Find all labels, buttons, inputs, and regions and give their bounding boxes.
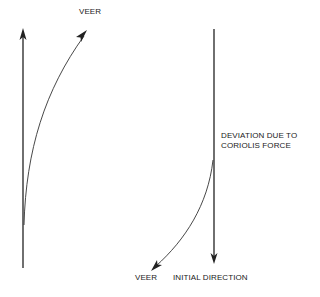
right-veer-arrow	[151, 160, 213, 271]
left-straight-arrow	[20, 28, 27, 268]
initial-direction-label: INITIAL DIRECTION	[173, 273, 248, 283]
left-veer-arrow	[24, 30, 87, 225]
right-straight-arrow	[211, 29, 218, 264]
veer-label-top: VEER	[79, 7, 101, 17]
deviation-label: DEVIATION DUE TO CORIOLIS FORCE	[221, 131, 297, 151]
deviation-label-line2: CORIOLIS FORCE	[221, 141, 297, 151]
deviation-label-line1: DEVIATION DUE TO	[221, 131, 297, 141]
veer-label-bottom: VEER	[135, 273, 157, 283]
